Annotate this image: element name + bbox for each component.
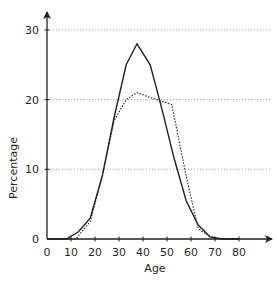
axes [47, 12, 272, 239]
y-axis-title: Percentage [7, 137, 20, 199]
x-tick-label: 0 [44, 246, 51, 259]
y-tick-label: 10 [25, 163, 39, 176]
y-tick-labels: 0102030 [25, 24, 50, 246]
line-chart: 01020304050607080 0102030 Age Percentage [0, 0, 277, 283]
y-tick-label: 30 [25, 24, 39, 37]
x-tick-label: 40 [136, 246, 150, 259]
x-tick-label: 70 [208, 246, 222, 259]
series-dotted [47, 93, 239, 239]
series-solid [47, 44, 239, 239]
x-tick-label: 60 [184, 246, 198, 259]
x-axis-title: Age [144, 262, 166, 275]
y-tick-label: 20 [25, 94, 39, 107]
y-tick-label: 0 [32, 233, 39, 246]
x-tick-label: 20 [88, 246, 102, 259]
x-tick-labels: 01020304050607080 [44, 237, 247, 260]
data-series [47, 44, 239, 239]
x-tick-label: 30 [112, 246, 126, 259]
x-tick-label: 80 [232, 246, 246, 259]
x-tick-label: 50 [160, 246, 174, 259]
x-tick-label: 10 [64, 246, 78, 259]
